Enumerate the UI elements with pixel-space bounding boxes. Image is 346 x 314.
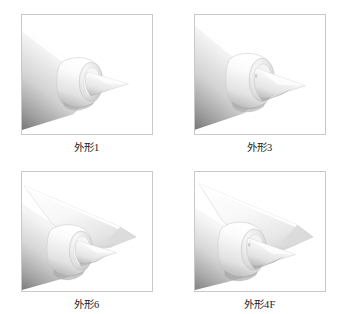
panel-caption-3: 外形6 bbox=[74, 300, 100, 311]
render-frame-3 bbox=[21, 171, 153, 292]
cad-render-config-4F bbox=[195, 172, 325, 291]
panel-caption-2: 外形3 bbox=[247, 143, 273, 154]
panel-caption-1: 外形1 bbox=[74, 143, 100, 154]
render-frame-1 bbox=[21, 14, 153, 135]
cad-render-config-6 bbox=[22, 172, 152, 291]
panel-caption-4: 外形4F bbox=[244, 300, 276, 311]
figure-panel-1: 外形1 bbox=[0, 0, 173, 157]
figure-panel-4: 外形4F bbox=[173, 157, 346, 314]
render-frame-2 bbox=[194, 14, 326, 135]
figure-panel-grid: 外形1 bbox=[0, 0, 346, 314]
cad-render-config-1 bbox=[22, 15, 152, 134]
render-frame-4 bbox=[194, 171, 326, 292]
figure-panel-3: 外形6 bbox=[0, 157, 173, 314]
cad-render-config-3 bbox=[195, 15, 325, 134]
figure-panel-2: 外形3 bbox=[173, 0, 346, 157]
